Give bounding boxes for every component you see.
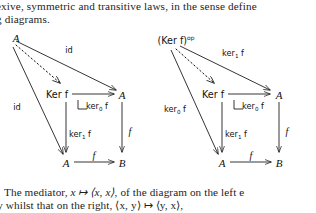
arrow-label-kernel-to-lower-left: ker1 f bbox=[69, 129, 91, 139]
node-domain-lower-left: A bbox=[219, 157, 226, 169]
arrow-label-apex-to-lower-left: ker0 f bbox=[164, 104, 186, 114]
arrow-mediator-dotted bbox=[176, 49, 214, 83]
line3-prefix: The mediator, bbox=[4, 186, 71, 198]
node-apex: (Ker f)op bbox=[157, 34, 194, 47]
node-kernel: Ker f bbox=[46, 88, 68, 100]
line3-suffix: , of the diagram on the left e bbox=[115, 186, 245, 198]
body-text-line-2: g diagrams. bbox=[0, 13, 50, 26]
left-diagram: A Ker f A A B id id ker0 f ker1 f f f bbox=[0, 28, 158, 183]
left-diagram-arrows bbox=[0, 28, 158, 183]
right-diagram: (Ker f)op Ker f A A B ker1 f ker0 f ker0… bbox=[152, 28, 310, 183]
arrow-apex-to-lower-left bbox=[13, 47, 63, 154]
body-text-line-1: exive, symmetric and transitive laws, in… bbox=[0, 0, 257, 13]
node-codomain-upper-right: A bbox=[276, 89, 283, 101]
node-domain-lower-left: A bbox=[63, 157, 70, 169]
arrow-label-lower-left-to-lower-right: f bbox=[250, 150, 253, 161]
node-codomain-upper-right: A bbox=[119, 89, 126, 101]
diagram-figure: A Ker f A A B id id ker0 f ker1 f f f bbox=[0, 28, 316, 183]
arrow-label-kernel-to-upper-right: ker0 f bbox=[86, 101, 108, 111]
page: exive, symmetric and transitive laws, in… bbox=[0, 0, 316, 213]
arrow-label-upper-right-to-lower-right: f bbox=[286, 126, 289, 137]
line3-math: x ↦ ⟨x, x⟩ bbox=[71, 186, 115, 198]
node-kernel: Ker f bbox=[202, 88, 224, 100]
arrow-label-upper-right-to-lower-right: f bbox=[129, 126, 132, 137]
arrow-mediator-dotted bbox=[16, 45, 60, 83]
arrow-label-kernel-to-upper-right: ker0 f bbox=[242, 101, 264, 111]
body-text-line-4: ty whilst that on the right, ⟨x, y⟩ ↦ ⟨y… bbox=[0, 199, 183, 212]
arrow-label-lower-left-to-lower-right: f bbox=[93, 150, 96, 161]
arrow-label-kernel-to-lower-left: ker1 f bbox=[225, 129, 247, 139]
arrow-label-apex-to-upper-right: ker1 f bbox=[222, 48, 244, 58]
node-codomain-lower-right: B bbox=[276, 157, 283, 169]
arrow-label-apex-to-upper-right: id bbox=[65, 45, 72, 55]
node-apex: A bbox=[13, 32, 20, 44]
arrow-label-apex-to-lower-left: id bbox=[13, 102, 20, 112]
body-text-line-3: The mediator, x ↦ ⟨x, x⟩, of the diagram… bbox=[4, 186, 244, 199]
node-codomain-lower-right: B bbox=[119, 157, 126, 169]
